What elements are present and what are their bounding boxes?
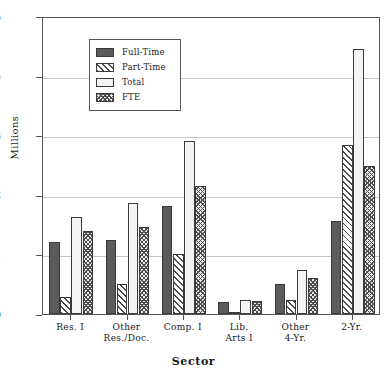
legend-label: Full-Time <box>122 48 165 57</box>
bar-total-group-4 <box>240 300 251 314</box>
x-tick-label-line: Res./Doc. <box>87 333 167 344</box>
x-tick-mark <box>296 315 297 320</box>
bar-part-time-group-3 <box>173 254 184 314</box>
legend-label: Total <box>122 78 144 87</box>
bar-fte-group-2 <box>139 227 150 314</box>
legend-swatch-icon <box>96 48 114 57</box>
bar-full-time-group-4 <box>218 302 229 314</box>
bar-full-time-group-2 <box>106 240 117 315</box>
bar-fte-group-3 <box>195 186 206 314</box>
y-tick-label: 4 <box>0 72 1 81</box>
gridline <box>43 197 379 198</box>
x-tick-label: 2-Yr. <box>312 322 387 333</box>
bar-fte-group-6 <box>364 166 375 314</box>
y-tick-label: 3 <box>0 132 1 141</box>
bar-part-time-group-4 <box>229 312 240 314</box>
legend-swatch-icon <box>96 93 114 102</box>
chart-legend: Full-TimePart-TimeTotalFTE <box>89 39 181 111</box>
y-tick-label: 5 <box>0 13 1 22</box>
x-tick-mark <box>239 315 240 320</box>
bar-total-group-3 <box>184 141 195 314</box>
bar-full-time-group-3 <box>162 206 173 314</box>
bar-part-time-group-6 <box>342 145 353 314</box>
y-axis-title: Millions <box>9 78 20 198</box>
y-tick-label: 1 <box>0 251 1 260</box>
legend-swatch-icon <box>96 78 114 87</box>
gridline <box>43 256 379 257</box>
bar-part-time-group-2 <box>117 284 128 314</box>
bar-total-group-2 <box>128 203 139 314</box>
grouped-bar-chart: Millions 543210 Full-TimePart-TimeTotalF… <box>0 0 387 375</box>
legend-item-full-time: Full-Time <box>96 45 175 60</box>
x-tick-mark <box>183 315 184 320</box>
legend-swatch-icon <box>96 63 114 72</box>
legend-label: FTE <box>122 93 140 102</box>
x-tick-mark <box>352 315 353 320</box>
legend-item-total: Total <box>96 75 175 90</box>
bar-fte-group-4 <box>252 301 263 314</box>
bar-part-time-group-1 <box>60 297 71 314</box>
y-tick-label: 0 <box>0 311 1 320</box>
bar-full-time-group-5 <box>275 284 286 314</box>
bar-total-group-5 <box>297 270 308 314</box>
gridline <box>43 137 379 138</box>
x-axis-title: Sector <box>0 355 387 368</box>
y-tick-label: 2 <box>0 191 1 200</box>
x-tick-label-line: 2-Yr. <box>312 322 387 333</box>
x-tick-label-line: 4-Yr. <box>256 333 336 344</box>
x-tick-mark <box>127 315 128 320</box>
bar-total-group-1 <box>71 217 82 314</box>
bar-full-time-group-1 <box>49 242 60 314</box>
bar-part-time-group-5 <box>286 300 297 314</box>
plot-area: Full-TimePart-TimeTotalFTE <box>42 17 380 315</box>
y-tick-mark <box>36 315 42 316</box>
legend-item-fte: FTE <box>96 90 175 105</box>
bar-full-time-group-6 <box>331 221 342 314</box>
legend-item-part-time: Part-Time <box>96 60 175 75</box>
bar-fte-group-5 <box>308 278 319 314</box>
x-tick-mark <box>70 315 71 320</box>
bar-fte-group-1 <box>83 231 94 314</box>
legend-label: Part-Time <box>122 63 166 72</box>
bar-total-group-6 <box>353 49 364 314</box>
